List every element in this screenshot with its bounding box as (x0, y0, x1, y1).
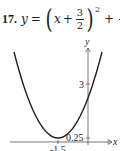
x-tick-label-neg15: -1.5 (50, 144, 66, 151)
y-tick-label-025: 0.25 (66, 132, 84, 143)
y-axis-label: y (84, 36, 90, 47)
x-axis-label: x (112, 136, 118, 147)
parabola-curve (14, 52, 102, 138)
parabola-graph: y x 3 0.25 -1.5 (0, 0, 120, 151)
y-tick-label-3: 3 (79, 79, 84, 90)
